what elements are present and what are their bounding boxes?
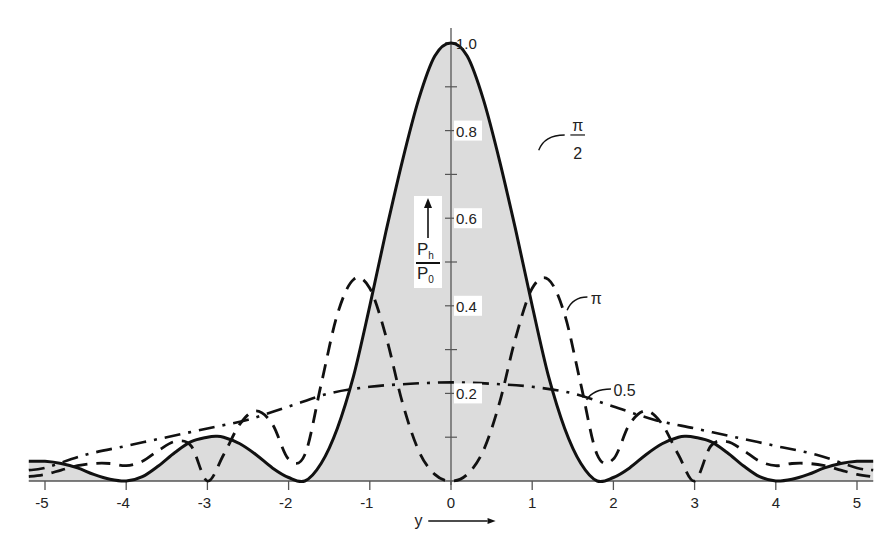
label-pi: π — [591, 290, 602, 307]
label-pi-over-2-den: 2 — [573, 145, 582, 162]
y-tick-label: 0.2 — [456, 385, 477, 402]
x-axis-label: y — [414, 512, 422, 529]
y-tick-label: 1.0 — [456, 35, 477, 52]
x-tick-label: -1 — [360, 494, 373, 511]
x-tick-label: 0 — [447, 494, 455, 511]
label-pi-over-2-num: π — [572, 117, 583, 134]
y-tick-label: 0.4 — [456, 298, 477, 315]
y-label-p0: P — [417, 264, 428, 283]
leader-pi-over-2 — [539, 135, 565, 150]
y-label-p: P — [417, 240, 428, 259]
leader-pi — [567, 297, 587, 310]
x-tick-label: 2 — [609, 494, 617, 511]
x-tick-label: 4 — [772, 494, 780, 511]
x-tick-label: 5 — [853, 494, 861, 511]
chart-canvas: -5-4-3-2-10123450.20.40.60.81.0 π2π0.5y — [0, 0, 894, 557]
x-tick-label: -5 — [35, 494, 48, 511]
label-0-5: 0.5 — [613, 382, 635, 399]
x-axis-arrowhead-icon — [488, 518, 496, 524]
y-tick-label: 0.8 — [456, 123, 477, 140]
y-label-sub-0: 0 — [428, 274, 434, 285]
x-tick-label: 3 — [690, 494, 698, 511]
x-tick-label: 1 — [528, 494, 536, 511]
y-axis-label: Ph P0 — [414, 196, 442, 288]
y-label-denominator: P0 — [417, 264, 434, 285]
x-tick-label: -4 — [117, 494, 130, 511]
y-tick-label: 0.6 — [456, 210, 477, 227]
y-label-sub-h: h — [428, 250, 434, 261]
y-label-numerator: Ph — [417, 240, 434, 261]
x-tick-label: -3 — [198, 494, 211, 511]
axes — [29, 28, 873, 490]
x-tick-label: -2 — [279, 494, 292, 511]
